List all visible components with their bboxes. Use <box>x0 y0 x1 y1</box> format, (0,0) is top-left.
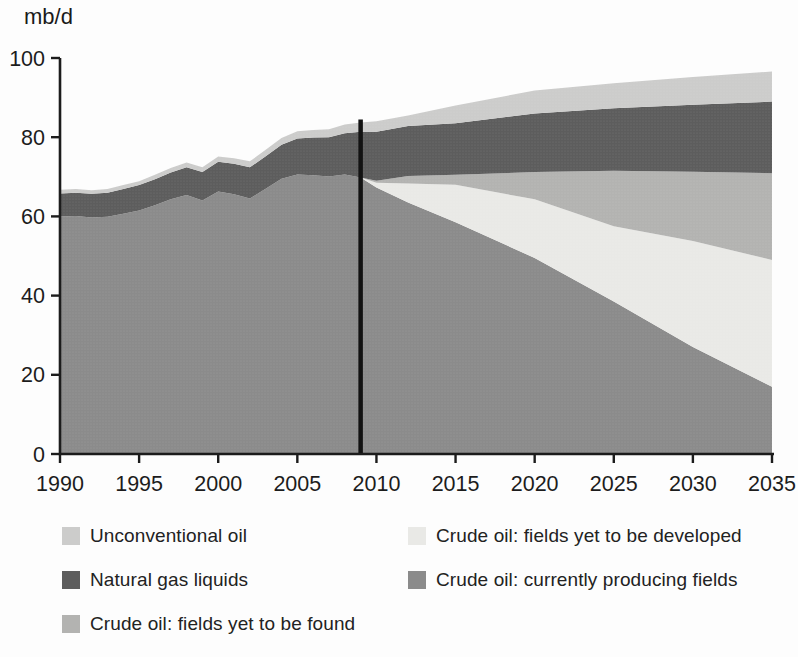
x-tick-label: 2005 <box>273 472 321 496</box>
stacked-area-chart: 0204060801001990199520002005201020152020… <box>0 0 798 512</box>
x-tick-label: 2015 <box>432 472 480 496</box>
x-tick-label: 2035 <box>748 472 796 496</box>
x-tick-label: 2020 <box>511 472 559 496</box>
x-tick-label: 2025 <box>590 472 638 496</box>
x-tick-label: 2030 <box>669 472 717 496</box>
legend-label: Natural gas liquids <box>90 569 248 591</box>
x-tick-label: 2010 <box>353 472 401 496</box>
y-tick-label: 40 <box>21 284 45 308</box>
y-tick-label: 100 <box>9 47 45 71</box>
x-tick-label: 2000 <box>194 472 242 496</box>
legend-label: Crude oil: fields yet to be developed <box>436 525 742 547</box>
crude-yet-to-be-found-swatch-icon <box>62 615 80 633</box>
crude-yet-to-be-developed-swatch-icon <box>408 527 426 545</box>
legend-item-natural-gas-liquids: Natural gas liquids <box>62 571 408 589</box>
legend-item-crude-currently-producing: Crude oil: currently producing fields <box>408 571 742 589</box>
legend-label: Crude oil: fields yet to be found <box>90 613 355 635</box>
legend-label: Unconventional oil <box>90 525 247 547</box>
legend-label: Crude oil: currently producing fields <box>436 569 738 591</box>
crude-currently-producing-swatch-icon <box>408 571 426 589</box>
chart-legend: Unconventional oil Crude oil: fields yet… <box>62 527 742 633</box>
y-tick-label: 80 <box>21 126 45 150</box>
unconventional-oil-swatch-icon <box>62 527 80 545</box>
legend-item-crude-yet-to-be-found: Crude oil: fields yet to be found <box>62 615 408 633</box>
legend-item-crude-yet-to-be-developed: Crude oil: fields yet to be developed <box>408 527 742 545</box>
x-tick-label: 1990 <box>36 472 84 496</box>
y-tick-label: 0 <box>33 443 45 467</box>
x-tick-label: 1995 <box>115 472 163 496</box>
y-tick-label: 60 <box>21 205 45 229</box>
legend-item-unconventional-oil: Unconventional oil <box>62 527 408 545</box>
natural-gas-liquids-swatch-icon <box>62 571 80 589</box>
y-tick-label: 20 <box>21 363 45 387</box>
halftone-texture <box>60 58 772 454</box>
oil-production-chart-figure: mb/d 02040608010019901995200020052010201… <box>0 0 798 657</box>
